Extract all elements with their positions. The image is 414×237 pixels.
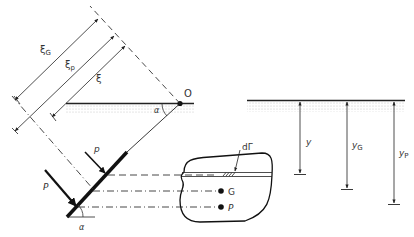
pressure-center-label: P <box>228 203 234 213</box>
angle-label-top: α <box>154 106 160 115</box>
resultant-P-arrow <box>45 170 76 206</box>
depth-y-label: y <box>305 137 312 147</box>
label-xi-p: ξp <box>65 59 76 72</box>
label-p: p <box>93 144 100 154</box>
strip-hatch <box>223 173 235 177</box>
centroid-label: G <box>228 187 235 197</box>
inclined-plane-section: O α α ξG ξp ξ p P <box>12 6 220 232</box>
origin-label: O <box>184 88 192 99</box>
dim-xi-G <box>15 19 98 100</box>
label-xi: ξ <box>96 73 102 84</box>
angle-label-bottom: α <box>79 223 85 232</box>
depth-yP-label: yP <box>398 148 409 160</box>
plate-shape: dΓ G P <box>180 142 272 222</box>
fluid-hatch-right <box>247 101 405 112</box>
pressure-center-point <box>218 204 224 210</box>
centroid-point <box>218 188 224 194</box>
perpendicular-dashed-line <box>90 6 180 104</box>
element-label: dΓ <box>242 142 253 152</box>
depth-yG-label: yG <box>351 140 363 152</box>
pressure-p-arrow <box>85 152 105 173</box>
hydrostatic-diagram: O α α ξG ξp ξ p P <box>0 0 414 237</box>
label-P: P <box>43 182 49 192</box>
element-leader <box>235 150 240 171</box>
label-xi-G: ξG <box>40 44 51 57</box>
